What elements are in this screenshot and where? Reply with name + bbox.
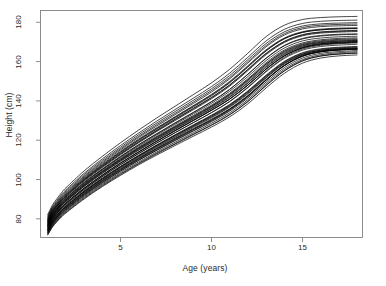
growth-curve-line [48, 40, 357, 225]
plot-canvas [0, 0, 386, 286]
growth-curves-group [48, 16, 357, 235]
y-axis-tick-label: 120 [8, 134, 30, 146]
y-axis-tick-value: 120 [13, 129, 25, 151]
y-axis-tick-label: 180 [8, 16, 30, 28]
growth-curve-line [48, 49, 357, 230]
growth-curve-line [48, 43, 357, 228]
y-axis-tick-value: 160 [13, 51, 25, 73]
y-axis-tick-value: 180 [13, 11, 25, 33]
growth-curve-line [48, 48, 357, 229]
growth-curve-line [48, 51, 357, 232]
y-axis-tick-label: 140 [8, 95, 30, 107]
growth-curve-line [48, 53, 357, 234]
growth-curve-line [48, 49, 357, 231]
growth-curve-line [48, 41, 357, 226]
y-axis-tick-label: 160 [8, 56, 30, 68]
growth-curve-line [48, 44, 357, 227]
y-axis-tick-value: 140 [13, 90, 25, 112]
growth-curve-line [48, 49, 357, 231]
growth-curve-line [48, 53, 357, 234]
growth-curve-line [48, 49, 357, 233]
growth-curve-line [48, 46, 357, 228]
growth-curve-line [48, 49, 357, 230]
growth-curve-line [48, 42, 357, 227]
growth-curve-line [48, 55, 357, 235]
y-axis-tick-label: 80 [8, 213, 30, 225]
y-axis-tick-label: 100 [8, 174, 30, 186]
growth-curve-line [48, 47, 357, 229]
growth-curve-line [48, 41, 357, 225]
growth-curves-figure: Height (cm) Age (years) 8010012014016018… [0, 0, 386, 286]
growth-curve-line [48, 38, 357, 224]
growth-curve-line [48, 42, 357, 227]
growth-curve-line [48, 48, 357, 230]
growth-curve-line [48, 42, 357, 227]
x-axis-tick-label: 15 [290, 243, 314, 253]
growth-curve-line [48, 52, 357, 233]
x-axis-title: Age (years) [150, 263, 260, 273]
y-axis-tick-value: 80 [13, 208, 25, 230]
x-axis-tick-label: 10 [200, 243, 224, 253]
x-axis-tick-label: 5 [109, 243, 133, 253]
y-axis-tick-value: 100 [13, 169, 25, 191]
